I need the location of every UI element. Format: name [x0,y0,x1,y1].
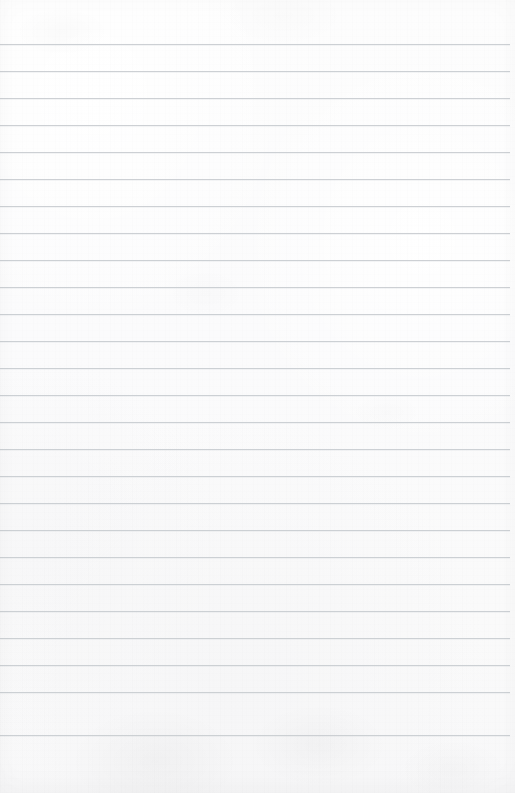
notebook-page [0,0,515,793]
writing-area[interactable] [0,44,510,736]
